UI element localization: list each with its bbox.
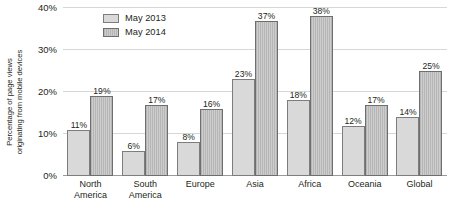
y-axis-tick-40: 40%	[38, 2, 63, 13]
x-axis-label: SouthAmerica	[118, 179, 173, 203]
bar-2013: 18%	[287, 100, 310, 176]
bar-chart: Percentage of page views originating fro…	[0, 0, 454, 203]
bar-2013: 6%	[122, 151, 145, 176]
legend-label-may-2013: May 2013	[125, 13, 166, 23]
bar-2014: 16%	[200, 109, 223, 176]
bar-value-label: 11%	[71, 120, 88, 130]
x-axis-label: Asia	[228, 179, 283, 203]
legend-item-may-2013: May 2013	[103, 13, 166, 23]
y-axis-title-line-1: Percentage of page views	[5, 49, 15, 154]
bar-value-label: 37%	[258, 11, 275, 21]
x-axis-label-line: America	[118, 190, 173, 201]
bar-value-label: 19%	[93, 86, 110, 96]
bar-wrapper: 12%	[342, 126, 365, 176]
x-axis-label-line: America	[63, 190, 118, 201]
y-axis-title: Percentage of page views originating fro…	[0, 0, 30, 203]
bar-wrapper: 37%	[255, 21, 278, 176]
x-axis-label: Europe	[173, 179, 228, 203]
x-axis-label-line: Africa	[282, 179, 337, 190]
x-axis-label: NorthAmerica	[63, 179, 118, 203]
bar-wrapper: 14%	[396, 117, 419, 176]
bar-2014: 37%	[255, 21, 278, 176]
bar-value-label: 6%	[128, 141, 140, 151]
bar-value-label: 14%	[399, 107, 416, 117]
bar-2013: 14%	[396, 117, 419, 176]
bar-wrapper: 23%	[232, 79, 255, 176]
bar-group: 23%37%	[232, 8, 278, 176]
bar-value-label: 17%	[368, 95, 385, 105]
bar-value-label: 12%	[345, 116, 362, 126]
legend: May 2013 May 2014	[103, 13, 166, 37]
x-axis-label-line: Oceania	[337, 179, 392, 190]
legend-swatch-icon-may-2013	[103, 14, 119, 23]
bar-2014: 19%	[90, 96, 113, 176]
y-axis-title-line-2: originating from mobile devices	[15, 49, 25, 154]
bar-wrapper: 6%	[122, 151, 145, 176]
bar-value-label: 17%	[148, 95, 165, 105]
x-axis-label-line: Global	[392, 179, 447, 190]
y-axis-tick-0: 0%	[43, 170, 63, 181]
x-axis-labels: NorthAmericaSouthAmericaEuropeAsiaAfrica…	[63, 179, 447, 203]
bar-value-label: 25%	[422, 61, 439, 71]
x-axis-label: Africa	[282, 179, 337, 203]
bar-value-label: 23%	[235, 69, 252, 79]
bar-group: 8%16%	[177, 8, 223, 176]
bar-wrapper: 38%	[310, 16, 333, 176]
bar-wrapper: 18%	[287, 100, 310, 176]
bar-wrapper: 11%	[67, 130, 90, 176]
bar-2014: 25%	[419, 71, 442, 176]
bar-2014: 38%	[310, 16, 333, 176]
legend-item-may-2014: May 2014	[103, 27, 166, 37]
bar-2013: 11%	[67, 130, 90, 176]
x-axis-label-line: Asia	[228, 179, 283, 190]
bar-2013: 12%	[342, 126, 365, 176]
x-axis-label-line: South	[118, 179, 173, 190]
y-axis-tick-10: 10%	[38, 128, 63, 139]
y-axis-tick-30: 30%	[38, 44, 63, 55]
legend-label-may-2014: May 2014	[125, 27, 166, 37]
bar-2014: 17%	[365, 105, 388, 176]
bar-group: 12%17%	[342, 8, 388, 176]
bar-wrapper: 19%	[90, 96, 113, 176]
bar-wrapper: 17%	[145, 105, 168, 176]
bar-2013: 23%	[232, 79, 255, 176]
bar-group: 14%25%	[396, 8, 442, 176]
bar-value-label: 16%	[203, 99, 220, 109]
bar-wrapper: 8%	[177, 142, 200, 176]
y-axis-tick-20: 20%	[38, 86, 63, 97]
bar-wrapper: 17%	[365, 105, 388, 176]
bar-wrapper: 16%	[200, 109, 223, 176]
x-axis-label: Oceania	[337, 179, 392, 203]
bar-value-label: 18%	[290, 90, 307, 100]
bar-2013: 8%	[177, 142, 200, 176]
x-axis-label: Global	[392, 179, 447, 203]
legend-swatch-icon-may-2014	[103, 28, 119, 37]
bar-value-label: 38%	[313, 6, 330, 16]
bar-2014: 17%	[145, 105, 168, 176]
x-axis-label-line: North	[63, 179, 118, 190]
bar-group: 18%38%	[287, 8, 333, 176]
bar-wrapper: 25%	[419, 71, 442, 176]
bar-value-label: 8%	[182, 132, 194, 142]
x-axis-label-line: Europe	[173, 179, 228, 190]
